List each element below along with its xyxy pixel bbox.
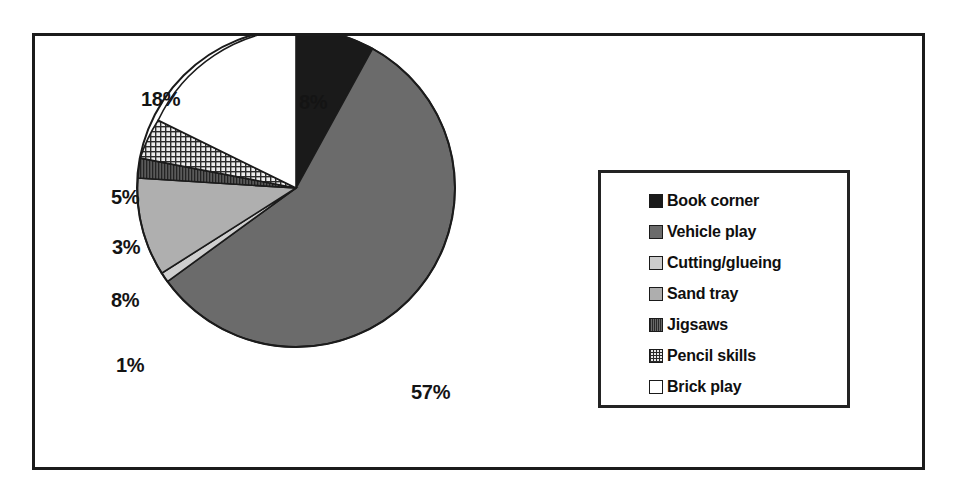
legend-swatch-sand-tray (649, 287, 663, 301)
legend-label-pencil-skills: Pencil skills (667, 348, 756, 364)
legend-label-cutting-glueing: Cutting/glueing (667, 255, 781, 271)
legend-item-sand-tray: Sand tray (601, 278, 847, 309)
legend-swatch-jigsaws (649, 318, 663, 332)
legend-item-vehicle-play: Vehicle play (601, 216, 847, 247)
legend-label-brick-play: Brick play (667, 379, 742, 395)
data-label-pencil-skills: 5% (111, 186, 139, 209)
data-label-book-corner: 8% (299, 91, 327, 114)
legend-item-cutting-glueing: Cutting/glueing (601, 247, 847, 278)
legend-swatch-vehicle-play (649, 225, 663, 239)
data-label-cutting-glueing: 1% (116, 354, 144, 377)
chart-outer-frame: 8% 57% 1% 8% 3% 5% 18% Book corner Vehic… (32, 33, 925, 470)
data-label-vehicle-play: 57% (411, 381, 450, 404)
legend-item-pencil-skills: Pencil skills (601, 340, 847, 371)
legend-label-sand-tray: Sand tray (667, 286, 738, 302)
data-label-sand-tray: 8% (111, 289, 139, 312)
legend-label-vehicle-play: Vehicle play (667, 224, 756, 240)
legend-item-brick-play: Brick play (601, 371, 847, 402)
legend-label-jigsaws: Jigsaws (667, 317, 728, 333)
legend-item-jigsaws: Jigsaws (601, 309, 847, 340)
legend-swatch-brick-play (649, 380, 663, 394)
legend-item-book-corner: Book corner (601, 185, 847, 216)
legend-swatch-book-corner (649, 194, 663, 208)
legend-swatch-pencil-skills (649, 349, 663, 363)
pie-chart-figure: 8% 57% 1% 8% 3% 5% 18% Book corner Vehic… (0, 0, 959, 502)
legend-item-list: Book corner Vehicle play Cutting/glueing… (601, 173, 847, 405)
chart-legend: Book corner Vehicle play Cutting/glueing… (598, 170, 850, 408)
pie-plot-area: 8% 57% 1% 8% 3% 5% 18% (35, 36, 595, 473)
data-label-jigsaws: 3% (112, 236, 140, 259)
legend-label-book-corner: Book corner (667, 193, 759, 209)
data-label-brick-play: 18% (141, 88, 180, 111)
legend-swatch-cutting-glueing (649, 256, 663, 270)
